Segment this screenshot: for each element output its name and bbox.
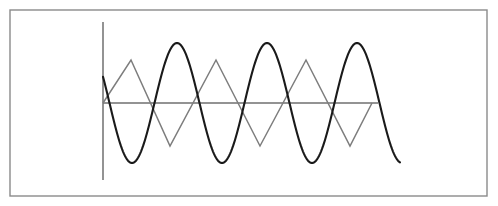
waveform-figure xyxy=(0,0,498,206)
figure-canvas xyxy=(0,0,498,206)
